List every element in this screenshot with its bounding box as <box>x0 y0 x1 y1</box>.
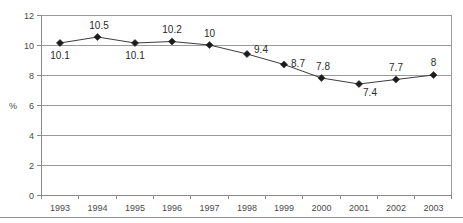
data-label-1994: 10.5 <box>89 20 109 31</box>
x-tick-label-1994: 1994 <box>87 203 107 213</box>
y-tick-labels: 12 10 8 6 4 2 0 <box>24 11 34 201</box>
x-tick-label-2003: 2003 <box>423 203 443 213</box>
y-tick-label-2: 2 <box>29 161 34 171</box>
data-label-1995: 10.1 <box>125 50 145 61</box>
data-label-2000: 7.8 <box>316 61 330 72</box>
data-label-2002: 7.7 <box>389 62 403 73</box>
x-tick-label-2002: 2002 <box>386 203 406 213</box>
data-label-1993: 10.1 <box>50 50 70 61</box>
x-tick-label-1999: 1999 <box>274 203 294 213</box>
x-tick-label-1998: 1998 <box>237 203 257 213</box>
y-tick-label-0: 0 <box>29 191 34 201</box>
chart-canvas: 12 10 8 6 4 2 0 % 1993 199 <box>0 0 463 223</box>
x-tick-label-2000: 2000 <box>311 203 331 213</box>
x-tick-label-1996: 1996 <box>162 203 182 213</box>
x-tick-label-1995: 1995 <box>125 203 145 213</box>
x-tick-labels: 1993 1994 1995 1996 1997 1998 1999 2000 … <box>50 203 444 213</box>
data-label-1996: 10.2 <box>162 24 182 35</box>
y-tick-label-4: 4 <box>29 131 34 141</box>
y-tick-label-8: 8 <box>29 71 34 81</box>
data-label-1998: 9.4 <box>254 44 268 55</box>
y-tick-label-6: 6 <box>29 101 34 111</box>
y-tick-marks <box>37 16 41 196</box>
y-axis-title: % <box>9 101 17 111</box>
y-tick-label-10: 10 <box>24 41 34 51</box>
x-tick-label-1997: 1997 <box>199 203 219 213</box>
line-chart: 12 10 8 6 4 2 0 % 1993 199 <box>0 0 463 223</box>
data-label-1997: 10 <box>204 28 216 39</box>
data-label-2001: 7.4 <box>363 87 377 98</box>
data-label-2003: 8 <box>431 57 437 68</box>
data-label-1999: 8.7 <box>291 58 305 69</box>
x-tick-label-2001: 2001 <box>349 203 369 213</box>
y-tick-label-12: 12 <box>24 11 34 21</box>
x-tick-label-1993: 1993 <box>50 203 70 213</box>
